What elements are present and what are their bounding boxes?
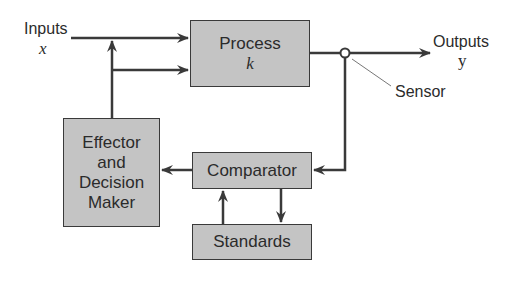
effector-line-4: Maker [88,193,135,213]
sensor-label: Sensor [395,83,446,101]
standards-label: Standards [213,232,291,252]
sensor-leader-line [352,59,391,86]
inputs-variable: x [39,39,47,59]
feedback-line [314,57,345,170]
effector-line-1: Effector [82,133,140,153]
outputs-variable: y [458,51,467,71]
outputs-label: Outputs [433,33,489,51]
process-block: Process k [190,20,310,87]
effector-block: Effector and Decision Maker [63,118,160,227]
process-variable: k [246,54,254,74]
standards-block: Standards [192,224,312,260]
sensor-node [341,49,350,58]
effector-line-3: Decision [79,173,144,193]
comparator-block: Comparator [192,152,312,189]
effector-line-2: and [97,153,125,173]
comparator-label: Comparator [207,161,297,181]
process-label: Process [219,34,280,54]
inputs-label: Inputs [24,20,68,38]
